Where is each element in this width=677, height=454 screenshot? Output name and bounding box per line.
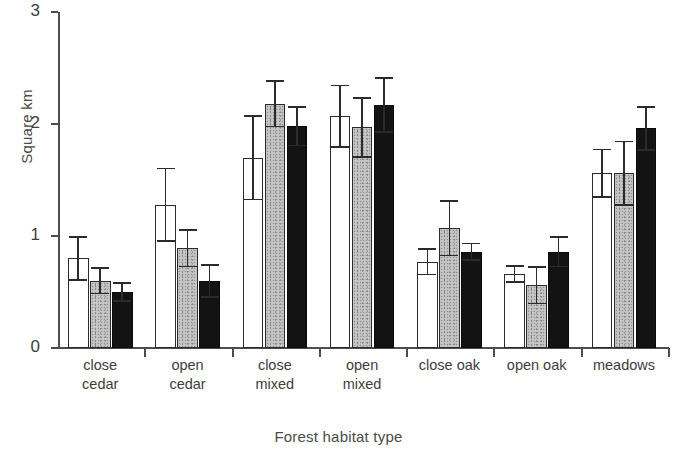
error-bar	[287, 106, 308, 146]
error-bar-cap-upper	[91, 267, 109, 269]
error-bar-stem	[209, 264, 211, 298]
y-tick-label: 1	[31, 225, 40, 245]
error-bar-cap-lower	[91, 293, 109, 295]
error-bar-cap-upper	[462, 243, 480, 245]
bar[interactable]	[504, 274, 525, 348]
error-bar-stem	[252, 115, 254, 200]
bar[interactable]	[287, 126, 308, 348]
error-bar-cap-upper	[266, 80, 284, 82]
error-bar-cap-upper	[593, 149, 611, 151]
error-bar-stem	[427, 248, 429, 275]
error-bar-stem	[339, 85, 341, 148]
error-bar-cap-upper	[179, 229, 197, 231]
y-tick-1: 1	[51, 235, 58, 237]
error-bar	[461, 243, 482, 261]
error-bar-stem	[623, 141, 625, 206]
x-category-label: meadows	[569, 356, 677, 375]
error-bar	[614, 141, 635, 206]
error-bar	[548, 236, 569, 267]
y-tick-label: 0	[31, 337, 40, 357]
error-bar-cap-upper	[637, 106, 655, 108]
error-bar-cap-lower	[615, 204, 633, 206]
error-bar-stem	[601, 149, 603, 198]
error-bar-cap-upper	[418, 248, 436, 250]
error-bar-cap-upper	[506, 265, 524, 267]
error-bar-stem	[383, 77, 385, 133]
error-bar-cap-lower	[550, 266, 568, 268]
error-bar-cap-lower	[266, 126, 284, 128]
error-bar-cap-lower	[506, 281, 524, 283]
bar-group	[58, 12, 145, 348]
error-bar-cap-upper	[528, 266, 546, 268]
error-bar	[352, 97, 373, 157]
error-bar-cap-upper	[69, 236, 87, 238]
error-bar-stem	[536, 266, 538, 304]
error-bar-cap-upper	[615, 141, 633, 143]
error-bar	[243, 115, 264, 200]
error-bar	[90, 267, 111, 294]
bar[interactable]	[374, 105, 395, 348]
error-bar-cap-upper	[288, 106, 306, 108]
bar-group	[145, 12, 232, 348]
y-tick-label: 3	[31, 1, 40, 21]
error-bar	[68, 236, 89, 281]
error-bar	[374, 77, 395, 133]
error-bar-cap-lower	[244, 199, 262, 201]
bar[interactable]	[330, 116, 351, 348]
error-bar	[199, 264, 220, 298]
bar[interactable]	[592, 173, 613, 348]
error-bar-cap-lower	[69, 279, 87, 281]
error-bar-cap-upper	[375, 77, 393, 79]
y-tick-label: 2	[31, 113, 40, 133]
error-bar-cap-lower	[157, 240, 175, 242]
error-bar-stem	[449, 200, 451, 256]
bar-group	[320, 12, 407, 348]
error-bar-cap-upper	[550, 236, 568, 238]
y-tick-2: 2	[51, 123, 58, 125]
error-bar-cap-lower	[179, 266, 197, 268]
bar-chart-figure: Square km 0123 closecedaropencedarclosem…	[0, 0, 677, 454]
error-bar	[417, 248, 438, 275]
error-bar-cap-lower	[353, 156, 371, 158]
error-bar-cap-upper	[113, 282, 131, 284]
error-bar-stem	[165, 168, 167, 242]
x-axis-title: Forest habitat type	[0, 428, 677, 445]
error-bar-stem	[645, 106, 647, 151]
error-bar-stem	[77, 236, 79, 281]
bar-group	[494, 12, 581, 348]
error-bar	[155, 168, 176, 242]
error-bar-cap-lower	[418, 274, 436, 276]
bar[interactable]	[352, 127, 373, 348]
error-bar	[177, 229, 198, 267]
error-bar	[636, 106, 657, 151]
error-bar	[112, 282, 133, 302]
error-bar-cap-lower	[288, 145, 306, 147]
error-bar-stem	[361, 97, 363, 157]
error-bar	[265, 80, 286, 127]
error-bar-cap-lower	[375, 131, 393, 133]
error-bar-stem	[274, 80, 276, 127]
error-bar-cap-lower	[528, 303, 546, 305]
bar-group	[582, 12, 669, 348]
bar[interactable]	[636, 128, 657, 348]
error-bar	[330, 85, 351, 148]
bar-group	[233, 12, 320, 348]
x-category-label-line: meadows	[569, 356, 677, 375]
bar[interactable]	[461, 252, 482, 348]
error-bar-stem	[187, 229, 189, 267]
error-bar-cap-lower	[462, 259, 480, 261]
error-bar	[439, 200, 460, 256]
y-tick-3: 3	[51, 11, 58, 13]
error-bar-cap-lower	[637, 149, 655, 151]
error-bar	[504, 265, 525, 283]
bar[interactable]	[265, 104, 286, 348]
error-bar-cap-lower	[331, 146, 349, 148]
x-category-label-line: mixed	[307, 375, 417, 394]
error-bar-stem	[471, 243, 473, 261]
error-bar	[592, 149, 613, 198]
error-bar-cap-upper	[244, 115, 262, 117]
error-bar-stem	[99, 267, 101, 294]
y-tick-0: 0	[51, 347, 58, 349]
error-bar-stem	[296, 106, 298, 146]
error-bar-cap-lower	[440, 255, 458, 257]
